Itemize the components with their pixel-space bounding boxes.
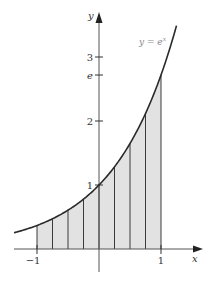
x-axis-label: x bbox=[192, 253, 198, 264]
function-label-base: y = e bbox=[138, 37, 163, 47]
function-label: y = ex bbox=[138, 35, 167, 47]
exponential-riemann-diagram: −11 12e3 x y y = ex bbox=[0, 0, 214, 281]
y-axis-label: y bbox=[87, 10, 94, 21]
y-ticks: 12e3 bbox=[87, 52, 103, 191]
x-tick-label: −1 bbox=[26, 255, 41, 266]
x-axis-arrow-icon bbox=[193, 246, 203, 253]
y-axis-arrow-icon bbox=[96, 12, 103, 23]
function-label-exponent: x bbox=[163, 35, 167, 42]
y-tick-label: 2 bbox=[87, 116, 93, 127]
y-tick-label: e bbox=[87, 70, 93, 81]
y-tick-label: 1 bbox=[87, 180, 93, 191]
x-tick-label: 1 bbox=[158, 255, 164, 266]
y-tick-label: 3 bbox=[87, 52, 93, 63]
